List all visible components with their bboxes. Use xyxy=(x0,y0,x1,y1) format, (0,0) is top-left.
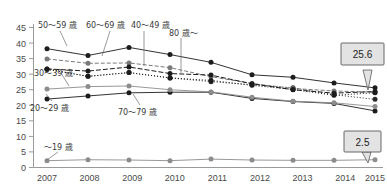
data-point xyxy=(168,65,173,70)
data-point xyxy=(168,75,173,80)
x-axis-tick-labels: 2007 2008 2009 2010 2011 2012 2013 2014 … xyxy=(37,173,385,183)
series-a30 xyxy=(45,83,378,109)
data-point xyxy=(86,84,91,89)
data-point xyxy=(250,72,255,77)
y-tick-35: 35 xyxy=(16,54,26,64)
data-series-layer xyxy=(45,45,378,163)
data-point xyxy=(127,45,132,50)
data-point xyxy=(86,157,91,162)
data-point xyxy=(332,158,337,163)
data-point xyxy=(373,104,378,109)
callout-top: 25.6 xyxy=(341,43,384,90)
x-tick-2013: 2013 xyxy=(293,173,313,183)
data-point xyxy=(373,157,378,162)
callout-top-value: 25.6 xyxy=(353,49,373,60)
data-point xyxy=(168,87,173,92)
y-tick-20: 20 xyxy=(16,101,26,111)
data-point xyxy=(373,90,378,95)
series-label-30-39: 30～39 歳 xyxy=(34,68,73,78)
data-point xyxy=(86,74,91,79)
y-axis-tick-labels: 45 40 35 30 25 20 15 10 5 0 xyxy=(16,23,26,173)
callout-bottom-pointer xyxy=(362,152,371,163)
series-u19 xyxy=(45,157,378,164)
x-tick-2007: 2007 xyxy=(37,173,57,183)
y-tick-10: 10 xyxy=(16,132,26,142)
data-point xyxy=(209,157,214,162)
series-label-40-49: 40～49 歳 xyxy=(131,20,170,30)
data-point xyxy=(291,87,296,92)
data-point xyxy=(86,69,91,74)
x-tick-2015: 2015 xyxy=(365,173,385,183)
data-point xyxy=(127,90,132,95)
leader-50-59 xyxy=(60,31,67,46)
data-point xyxy=(127,70,132,75)
series-label-50-59: 50～59 歳 xyxy=(38,20,77,30)
y-tick-40: 40 xyxy=(16,39,26,49)
data-point xyxy=(209,60,214,65)
series-label-70-79: 70～79 歳 xyxy=(118,107,157,117)
data-point xyxy=(332,93,337,98)
data-point xyxy=(168,158,173,163)
data-point xyxy=(250,83,255,88)
data-point xyxy=(86,53,91,58)
data-point xyxy=(250,95,255,100)
line-chart-figure: 45 40 35 30 25 20 15 10 5 0 2007 2008 20… xyxy=(0,0,387,196)
y-tick-0: 0 xyxy=(21,163,26,173)
leader-70-79 xyxy=(133,94,140,105)
x-tick-2010: 2010 xyxy=(165,173,185,183)
data-point xyxy=(209,73,214,78)
series-label-80-up: 80 歳～ xyxy=(169,28,198,38)
data-point xyxy=(86,61,91,66)
data-point xyxy=(127,158,132,163)
callout-bottom-value: 2.5 xyxy=(356,137,370,148)
y-tick-30: 30 xyxy=(16,70,26,80)
data-point xyxy=(373,108,378,113)
x-tick-2008: 2008 xyxy=(80,173,100,183)
y-tick-marks xyxy=(29,28,34,168)
data-point xyxy=(86,93,91,98)
series-label-u19: 〜19 歳 xyxy=(44,142,73,152)
data-point xyxy=(373,97,378,102)
data-point xyxy=(45,87,50,92)
y-tick-5: 5 xyxy=(21,147,26,157)
leader-u19 xyxy=(47,152,58,160)
data-point xyxy=(45,56,50,61)
data-point xyxy=(209,89,214,94)
x-tick-2011: 2011 xyxy=(208,173,227,183)
data-point xyxy=(291,75,296,80)
data-point xyxy=(127,83,132,88)
data-point xyxy=(209,78,214,83)
data-point xyxy=(168,71,173,76)
data-point xyxy=(291,158,296,163)
data-point xyxy=(250,158,255,163)
series-label-60-69: 60～69 歳 xyxy=(86,20,125,30)
data-point xyxy=(127,65,132,70)
y-tick-45: 45 xyxy=(16,23,26,33)
x-tick-2009: 2009 xyxy=(122,173,142,183)
data-point xyxy=(332,80,337,85)
data-point xyxy=(168,52,173,57)
x-tick-2012: 2012 xyxy=(250,173,270,183)
data-point xyxy=(332,100,337,105)
series-label-20-29: 20～29 歳 xyxy=(30,103,69,113)
series-line-a20 xyxy=(47,92,375,111)
data-point xyxy=(291,99,296,104)
chart-canvas: 45 40 35 30 25 20 15 10 5 0 2007 2008 20… xyxy=(0,0,387,196)
data-point xyxy=(45,46,50,51)
y-tick-15: 15 xyxy=(16,116,26,126)
x-tick-2014: 2014 xyxy=(335,173,355,183)
series-a40 xyxy=(45,67,378,102)
y-tick-25: 25 xyxy=(16,85,26,95)
